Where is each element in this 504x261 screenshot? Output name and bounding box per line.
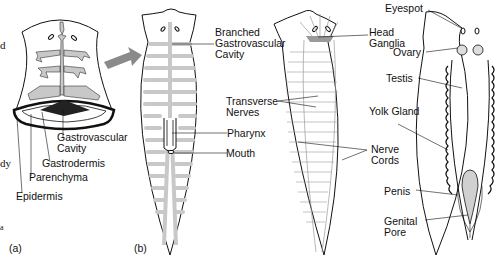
label-gastrovascular-cavity: Gastrovascular Cavity (57, 132, 128, 154)
edge-fragment-3: a (0, 222, 4, 233)
label-nerve-cords: Nerve Cords (371, 144, 399, 166)
body-nervous (274, 10, 368, 255)
label-gastrodermis: Gastrodermis (42, 158, 105, 169)
panel-label-b: (b) (134, 243, 147, 254)
label-genital-pore: Genital Pore (384, 216, 417, 238)
label-pharynx: Pharynx (227, 128, 266, 139)
label-ovary: Ovary (393, 47, 421, 58)
label-epidermis: Epidermis (16, 191, 63, 202)
arrow-icon (104, 47, 142, 69)
edge-fragment-1: d (0, 40, 6, 51)
panel-label-a: (a) (9, 243, 22, 254)
edge-fragment-2: dy (0, 158, 11, 169)
label-branched-gastrovascular-cavity: Branched Gastrovascular Cavity (215, 27, 286, 60)
label-penis: Penis (384, 186, 410, 197)
label-parenchyma: Parenchyma (29, 172, 88, 183)
label-eyespot: Eyespot (385, 3, 423, 14)
label-mouth: Mouth (226, 148, 255, 159)
label-yolk-gland: Yolk Gland (369, 106, 419, 117)
label-transverse-nerves: Transverse Nerves (226, 96, 278, 118)
label-testis: Testis (386, 73, 413, 84)
